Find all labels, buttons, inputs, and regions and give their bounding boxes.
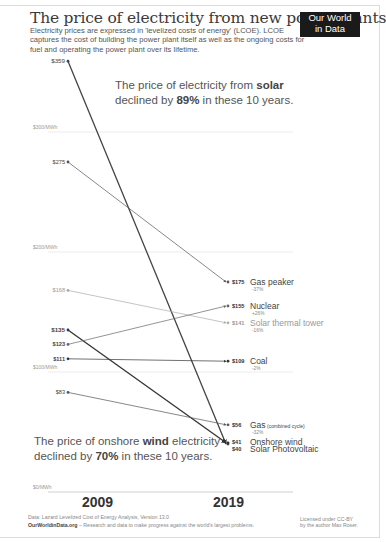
change-pct: -2%	[252, 366, 261, 371]
year-label-2009: 2009	[82, 494, 113, 510]
value-2019: $141	[232, 320, 244, 326]
wind-annotation: The price of onshore wind electricity de…	[34, 434, 220, 463]
series-name: Gas peaker	[250, 277, 294, 287]
site-line: OurWorldinData.org – Research and data t…	[28, 522, 254, 528]
series-solar-thermal-tower[interactable]: $168$141Solar thermal tower-16%	[53, 287, 324, 332]
gridline-label: $100/MWh	[33, 364, 57, 370]
value-2009: $135	[51, 326, 65, 333]
series-name: Onshore wind	[250, 437, 303, 447]
year-label-2019: 2019	[213, 494, 244, 510]
series-nuclear[interactable]: $123$155Nuclear+26%	[53, 301, 280, 347]
source-note: Data: Lazard Levelized Cost of Energy An…	[28, 514, 169, 520]
license-note: Licensed under CC-BY by the author Max R…	[300, 516, 348, 528]
value-2019: $109	[232, 358, 244, 364]
gridline-label: $300/MWh	[33, 124, 57, 130]
value-2019: $175	[232, 279, 244, 285]
value-2009: $168	[53, 287, 65, 293]
value-2009: $111	[53, 356, 65, 362]
series-name: Solar thermal tower	[250, 318, 324, 328]
value-2009: $123	[53, 341, 65, 347]
value-2019: $40	[232, 446, 241, 452]
change-pct: -32%	[252, 430, 264, 435]
value-2019: $155	[232, 303, 244, 309]
solar-annotation: The price of electricity from solar decl…	[115, 78, 293, 107]
site-link[interactable]: OurWorldinData.org	[28, 522, 77, 528]
gridline-label: $200/MWh	[33, 244, 57, 250]
series-solar-photovoltaic[interactable]: $359$40Solar Photovoltaic	[51, 57, 319, 454]
value-2009: $83	[56, 389, 65, 395]
series-gas[interactable]: $83$56Gas (combined cycle)-32%	[56, 389, 305, 434]
change-pct: -16%	[252, 328, 264, 333]
change-pct: +26%	[252, 311, 265, 316]
series-name: Coal	[250, 356, 268, 366]
value-2019: $56	[232, 422, 241, 428]
series-name: Gas (combined cycle)	[250, 420, 305, 430]
change-pct: -37%	[252, 287, 264, 292]
value-2019: $41	[232, 439, 241, 445]
value-2009: $275	[53, 159, 65, 165]
series-coal[interactable]: $111$109Coal-2%	[53, 356, 267, 371]
value-2009: $359	[51, 57, 65, 64]
series-name: Nuclear	[250, 301, 279, 311]
gridline-label: $0/MWh	[33, 484, 52, 490]
series-gas-peaker[interactable]: $275$175Gas peaker-37%	[53, 159, 295, 292]
